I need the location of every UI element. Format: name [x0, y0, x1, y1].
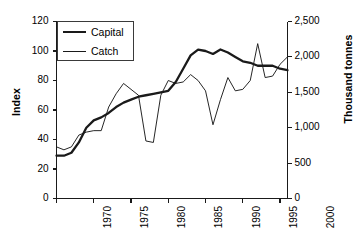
x-axis-tick-label: 1985 [213, 206, 224, 246]
y-axis-right-tick-label: 500 [295, 157, 335, 168]
x-axis-tick-label: 2000 [325, 206, 336, 246]
y-axis-left-tick-label: 80 [15, 74, 49, 85]
legend-line-icon-catch [63, 46, 86, 56]
y-axis-left-tick-label: 120 [15, 15, 49, 26]
chart-legend: Capital Catch [57, 21, 134, 61]
x-axis-tick-label: 1975 [139, 206, 150, 246]
legend-line-icon-capital [63, 27, 86, 37]
legend-label-catch: Catch [91, 45, 118, 57]
y-axis-right-tick-label: 1,500 [295, 86, 335, 97]
y-axis-right-tick-label: 2,000 [295, 50, 335, 61]
y-axis-right-tick-label: 0 [295, 192, 335, 203]
y-axis-left-tick-label: 100 [15, 45, 49, 56]
y-axis-left-tick-label: 20 [15, 163, 49, 174]
y-axis-right-tick-label: 1,000 [295, 121, 335, 132]
x-axis-tick-label: 1990 [251, 206, 262, 246]
x-axis-tick-label: 1995 [288, 206, 299, 246]
y-axis-left-tick-label: 60 [15, 104, 49, 115]
y-axis-left-tick-label: 40 [15, 133, 49, 144]
legend-entry-catch: Catch [58, 41, 133, 61]
legend-entry-capital: Capital [58, 22, 133, 42]
y-axis-left-tick-label: 0 [15, 192, 49, 203]
x-axis-tick-label: 1970 [102, 206, 113, 246]
y-axis-right-tick-label: 2,500 [295, 15, 335, 26]
x-axis-tick-label: 1980 [176, 206, 187, 246]
legend-label-capital: Capital [91, 26, 124, 38]
